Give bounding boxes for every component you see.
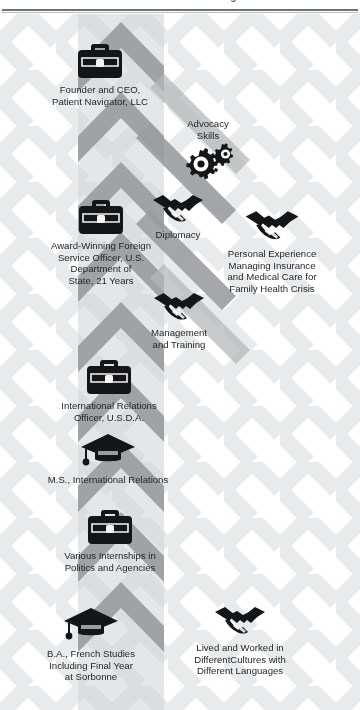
node-caption: Lived and Worked in DifferentCultures wi… <box>160 642 320 677</box>
infographic-canvas: Founder and CEO, Patient Navigator, LLC … <box>0 14 360 710</box>
node-advocacy-skills[interactable]: Advocacy Skills <box>152 118 264 182</box>
header-divider-thick <box>2 9 358 11</box>
node-foreign-service-officer[interactable]: Award-Winning Foreign Service Officer, U… <box>16 194 186 286</box>
node-caption: Founder and CEO, Patient Navigator, LLC <box>12 84 188 107</box>
node-caption: M.S., International Relations <box>8 474 208 486</box>
node-management-and-training[interactable]: Management and Training <box>124 288 234 350</box>
handshake-icon <box>241 206 303 246</box>
node-ms-international-relations[interactable]: M.S., International Relations <box>8 428 208 486</box>
graduation-cap-icon <box>62 602 120 646</box>
node-lived-and-worked-abroad[interactable]: Lived and Worked in DifferentCultures wi… <box>160 602 320 677</box>
briefcase-icon <box>83 354 135 398</box>
node-caption: Various Internships in Politics and Agen… <box>22 550 198 573</box>
gears-icon <box>178 142 238 182</box>
node-caption: Award-Winning Foreign Service Officer, U… <box>16 240 186 286</box>
node-caption: Management and Training <box>124 327 234 350</box>
handshake-icon <box>150 288 208 326</box>
node-caption: Advocacy Skills <box>152 118 264 141</box>
node-caption: B.A., French Studies Including Final Yea… <box>18 648 164 683</box>
node-founder-ceo[interactable]: Founder and CEO, Patient Navigator, LLC <box>12 38 188 107</box>
briefcase-icon <box>84 504 136 548</box>
briefcase-icon <box>75 194 127 238</box>
node-personal-experience[interactable]: Personal Experience Managing Insurance a… <box>190 206 354 294</box>
page-title: Career Path: Patient Navigator <box>0 0 360 2</box>
page-header-strip: Career Path: Patient Navigator <box>0 0 360 14</box>
header-divider-thin <box>2 12 358 13</box>
node-ba-french-studies[interactable]: B.A., French Studies Including Final Yea… <box>18 602 164 683</box>
node-caption: International Relations Officer, U.S.D.A… <box>24 400 194 423</box>
node-international-relations-officer[interactable]: International Relations Officer, U.S.D.A… <box>24 354 194 423</box>
node-various-internships[interactable]: Various Internships in Politics and Agen… <box>22 504 198 573</box>
graduation-cap-icon <box>79 428 137 472</box>
handshake-icon <box>211 602 269 640</box>
briefcase-icon <box>74 38 126 82</box>
